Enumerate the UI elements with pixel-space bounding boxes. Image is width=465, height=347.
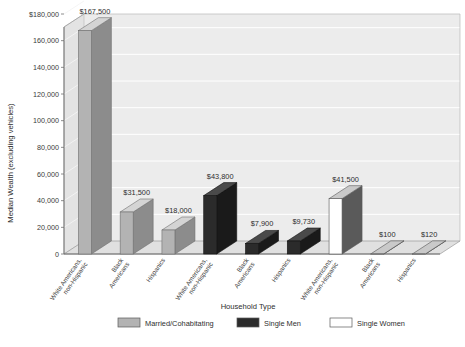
bar-front-face: [246, 243, 259, 254]
bar: [204, 183, 237, 254]
x-axis-title: Household Type: [221, 302, 276, 311]
bar-front-face: [162, 230, 175, 254]
bar-value-label: $41,500: [332, 175, 359, 184]
legend-label: Single Women: [357, 319, 405, 328]
x-category-label: Hispanics: [145, 257, 167, 284]
x-category-label: BlackAmericans: [227, 256, 256, 290]
x-category-label: BlackAmericans: [352, 256, 381, 290]
legend-swatch: [237, 318, 259, 327]
legend-label: Single Men: [264, 319, 301, 328]
y-tick-label: 160,000: [33, 36, 59, 45]
x-category-label: BlackAmericans: [101, 256, 130, 290]
y-tick-label: 0: [55, 250, 59, 259]
bar-value-label: $100: [379, 230, 395, 239]
chart-legend: Married/CohabitatingSingle MenSingle Wom…: [118, 318, 405, 328]
x-category-label: Hispanics: [395, 257, 417, 284]
x-category-label: White Americans,non-Hispanic: [299, 256, 340, 306]
bar-front-face: [329, 199, 342, 254]
x-category-label-line: Hispanics: [270, 257, 292, 284]
bar-front-face: [78, 31, 91, 254]
legend-label: Married/Cohabitating: [145, 319, 214, 328]
chart-container: 020,00040,00060,00080,000100,000120,0001…: [0, 0, 465, 347]
bar-value-label: $9,730: [292, 217, 315, 226]
x-category-label-line: Hispanics: [395, 257, 417, 284]
legend-swatch: [330, 318, 352, 327]
bar: [329, 186, 362, 254]
bar-value-label: $167,500: [79, 7, 110, 16]
y-tick-label: 100,000: [33, 116, 59, 125]
y-tick-label: 20,000: [37, 223, 59, 232]
y-tick-label: 40,000: [37, 196, 59, 205]
bar-value-label: $120: [421, 230, 437, 239]
bar-front-face: [413, 254, 426, 255]
bar-front-face: [204, 196, 217, 254]
x-category-label: Hispanics: [270, 257, 292, 284]
y-tick-label: 140,000: [33, 63, 59, 72]
x-axis-category-labels: White Americans,non-HispanicBlackAmerica…: [48, 256, 417, 306]
y-tick-label: 60,000: [37, 170, 59, 179]
bar-front-face: [371, 254, 384, 255]
y-tick-label: $180,000: [29, 10, 59, 19]
bar-value-label: $7,900: [251, 219, 274, 228]
y-tick-label: 120,000: [33, 90, 59, 99]
bar-value-label: $43,800: [207, 172, 234, 181]
x-category-label: White Americans,non-Hispanic: [174, 256, 215, 306]
y-axis-title: Median Wealth (excluding vehicles): [6, 103, 15, 223]
bar: [78, 18, 111, 254]
y-axis-tick-labels: 020,00040,00060,00080,000100,000120,0001…: [29, 10, 59, 259]
bar-front-face: [120, 212, 133, 254]
x-category-label: White Americans,non-Hispanic: [48, 256, 89, 306]
y-tick-label: 80,000: [37, 143, 59, 152]
bar-chart-3d: 020,00040,00060,00080,000100,000120,0001…: [0, 0, 465, 347]
x-category-label-line: Hispanics: [145, 257, 167, 284]
legend-swatch: [118, 318, 140, 327]
bar-front-face: [287, 241, 300, 254]
bar-value-label: $31,500: [123, 188, 150, 197]
bar-side-face: [91, 18, 111, 254]
bar-value-label: $18,000: [165, 206, 192, 215]
